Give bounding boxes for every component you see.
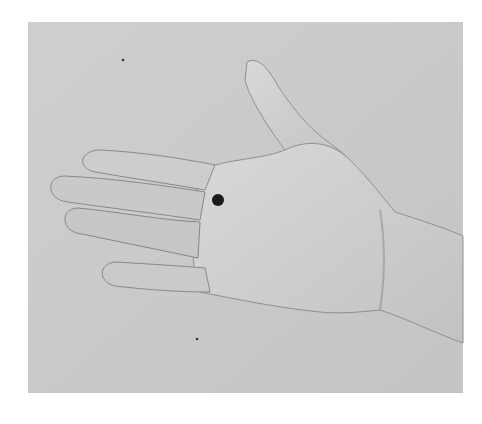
speck xyxy=(122,59,125,62)
marker-dot xyxy=(212,194,224,206)
speck xyxy=(196,338,199,341)
hand-illustration xyxy=(0,0,482,424)
